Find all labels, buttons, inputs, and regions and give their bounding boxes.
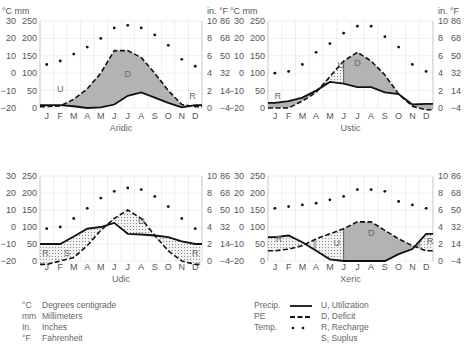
inch-tick: 0 bbox=[438, 103, 443, 113]
fahrenheit-tick: 32 bbox=[451, 68, 461, 78]
mm-tick: 100 bbox=[250, 222, 265, 232]
zone-label-r: R bbox=[189, 91, 196, 101]
fahrenheit-tick: −4 bbox=[451, 103, 461, 113]
mm-tick: 150 bbox=[22, 51, 37, 61]
inch-tick: 10 bbox=[207, 171, 217, 181]
fahrenheit-tick: 50 bbox=[451, 51, 461, 61]
fahrenheit-tick: 50 bbox=[220, 51, 230, 61]
month-label: D bbox=[423, 111, 430, 121]
right-units-header: in. °F bbox=[207, 6, 229, 16]
mm-tick: 0 bbox=[260, 103, 265, 113]
mm-tick: 0 bbox=[32, 256, 37, 266]
celsius-tick: 30 bbox=[234, 16, 244, 26]
celsius-tick: 0 bbox=[11, 68, 16, 78]
temp-point bbox=[301, 63, 304, 66]
legend-unit-row: mmMillimeters bbox=[22, 311, 116, 322]
mm-tick: 50 bbox=[255, 86, 265, 96]
celsius-tick: −20 bbox=[229, 103, 244, 113]
inch-tick: 4 bbox=[438, 222, 443, 232]
temp-point bbox=[356, 188, 359, 191]
temp-point bbox=[99, 197, 102, 200]
legend-precip: Precip. bbox=[254, 300, 320, 311]
temp-point bbox=[45, 63, 48, 66]
inch-tick: 8 bbox=[207, 33, 212, 43]
dashed-line-icon bbox=[288, 314, 316, 320]
celsius-tick: 0 bbox=[239, 222, 244, 232]
celsius-tick: 0 bbox=[239, 68, 244, 78]
month-label: M bbox=[326, 262, 334, 272]
inch-tick: 2 bbox=[207, 239, 212, 249]
mm-tick: 250 bbox=[250, 16, 265, 26]
mm-tick: 50 bbox=[27, 86, 37, 96]
mm-tick: 100 bbox=[22, 68, 37, 78]
month-label: A bbox=[84, 262, 90, 272]
month-label: M bbox=[326, 111, 334, 121]
month-label: J bbox=[355, 262, 360, 272]
inch-tick: 4 bbox=[207, 222, 212, 232]
mm-tick: 50 bbox=[27, 239, 37, 249]
zone-label-r: R bbox=[42, 248, 49, 258]
month-label: N bbox=[179, 111, 186, 121]
temp-point bbox=[153, 34, 156, 37]
temp-point bbox=[99, 37, 102, 40]
inch-tick: 2 bbox=[438, 86, 443, 96]
celsius-tick: 20 bbox=[6, 33, 16, 43]
temp-point bbox=[397, 46, 400, 49]
zone-label-u: U bbox=[138, 216, 145, 226]
temp-point bbox=[153, 195, 156, 198]
mm-tick: 100 bbox=[22, 222, 37, 232]
month-label: J bbox=[126, 262, 131, 272]
month-label: O bbox=[395, 262, 402, 272]
month-label: F bbox=[58, 262, 64, 272]
temp-point bbox=[315, 51, 318, 54]
fahrenheit-tick: 32 bbox=[220, 68, 230, 78]
zone-label-r: R bbox=[192, 248, 199, 258]
celsius-tick: 10 bbox=[234, 205, 244, 215]
inch-tick: 8 bbox=[438, 188, 443, 198]
climate-plot-aridic: 30250108620200868101506500100432−1050214… bbox=[1, 6, 230, 133]
temp-point bbox=[287, 70, 290, 73]
zone-label-d: D bbox=[125, 69, 132, 79]
inch-tick: 8 bbox=[438, 33, 443, 43]
left-units-header: °C mm bbox=[230, 6, 258, 16]
month-label: J bbox=[112, 111, 117, 121]
temp-point bbox=[342, 32, 345, 35]
zone-label-s: S bbox=[64, 248, 70, 258]
plot-title: Xeric bbox=[340, 274, 361, 284]
month-label: D bbox=[423, 262, 430, 272]
mm-tick: 200 bbox=[22, 33, 37, 43]
temp-point bbox=[328, 42, 331, 45]
legend-temp: Temp. bbox=[254, 322, 320, 333]
climate-plot-xeric: 30250108620200868101506500100432−1050214… bbox=[229, 171, 461, 284]
month-label: A bbox=[313, 262, 319, 272]
inch-tick: 6 bbox=[438, 205, 443, 215]
mm-tick: 0 bbox=[260, 256, 265, 266]
month-label: J bbox=[341, 111, 346, 121]
inch-tick: 10 bbox=[207, 16, 217, 26]
temp-point bbox=[194, 65, 197, 68]
mm-tick: 200 bbox=[22, 188, 37, 198]
month-label: M bbox=[299, 262, 307, 272]
legend-zone-deficit: D, Deficit bbox=[321, 311, 369, 322]
mm-tick: 200 bbox=[250, 188, 265, 198]
celsius-tick: 30 bbox=[234, 171, 244, 181]
fahrenheit-tick: −4 bbox=[451, 256, 461, 266]
temp-point bbox=[72, 53, 75, 56]
inch-tick: 10 bbox=[438, 171, 448, 181]
month-label: A bbox=[368, 111, 374, 121]
month-label: D bbox=[192, 111, 199, 121]
month-label: A bbox=[368, 262, 374, 272]
celsius-tick: 20 bbox=[234, 33, 244, 43]
inch-tick: 2 bbox=[438, 239, 443, 249]
temp-point bbox=[167, 205, 170, 208]
temp-point bbox=[86, 46, 89, 49]
temp-point bbox=[425, 207, 428, 210]
fahrenheit-tick: 14 bbox=[451, 86, 461, 96]
fahrenheit-tick: 50 bbox=[451, 205, 461, 215]
temp-point bbox=[383, 190, 386, 193]
temp-point bbox=[411, 63, 414, 66]
temp-point bbox=[113, 27, 116, 30]
month-label: S bbox=[152, 262, 158, 272]
month-label: O bbox=[395, 111, 402, 121]
temp-point bbox=[180, 217, 183, 220]
